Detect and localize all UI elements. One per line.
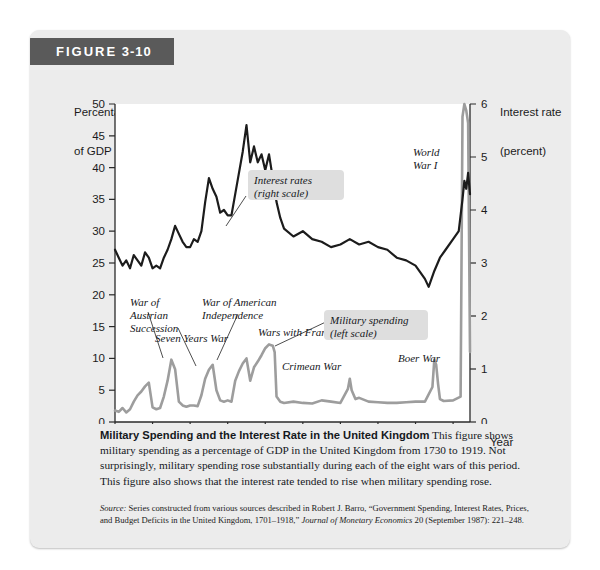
figure-caption: Military Spending and the Interest Rate …	[100, 428, 520, 489]
boer-war-label: Boer War	[398, 352, 441, 364]
source-text-2: 20 (September 1987): 221–248.	[412, 515, 523, 525]
left-tick-label: 15	[92, 321, 105, 333]
caption-lead: Military Spending and the Interest Rate …	[100, 429, 429, 441]
left-tick-label: 40	[92, 162, 105, 174]
left-tick-label: 0	[99, 416, 105, 424]
right-tick-label: 0	[481, 416, 487, 424]
left-tick-label: 10	[92, 352, 105, 364]
left-tick-label: 35	[92, 193, 105, 205]
left-axis-ticks: 05101520253035404550	[92, 98, 115, 424]
chart-plot-area: 05101520253035404550 0123456 17301750177…	[30, 74, 570, 424]
chart-svg: 05101520253035404550 0123456 17301750177…	[30, 74, 570, 424]
right-tick-label: 3	[481, 257, 487, 269]
right-tick-label: 2	[481, 310, 487, 322]
right-axis-ticks: 0123456	[470, 98, 488, 424]
figure-source-note: Source: Series constructed from various …	[100, 503, 532, 526]
world-war-i-label: WorldWar I	[413, 146, 440, 171]
right-tick-label: 1	[481, 363, 487, 375]
figure-card: FIGURE 3-10 Percentage of GDP Interest r…	[30, 30, 570, 548]
left-tick-label: 45	[92, 130, 105, 142]
right-tick-label: 5	[481, 151, 487, 163]
left-tick-label: 20	[92, 289, 105, 301]
figure-label-word: FIGURE	[56, 44, 117, 59]
left-tick-label: 30	[92, 225, 105, 237]
source-journal-name: Journal of Monetary Economics	[301, 515, 412, 525]
right-tick-label: 4	[481, 204, 488, 216]
left-tick-label: 5	[99, 384, 105, 396]
right-tick-label: 6	[481, 98, 487, 110]
left-tick-label: 25	[92, 257, 105, 269]
crimean-war-label: Crimean War	[282, 360, 342, 372]
left-tick-label: 50	[92, 98, 105, 110]
seven-years-war-label: Seven Years War	[155, 332, 229, 344]
source-word: Source:	[100, 503, 126, 513]
figure-label-number: 3-10	[122, 44, 152, 59]
figure-label-badge: FIGURE 3-10	[30, 38, 174, 65]
interest-rates-legend-label: Interest rates(right scale)	[253, 174, 312, 200]
